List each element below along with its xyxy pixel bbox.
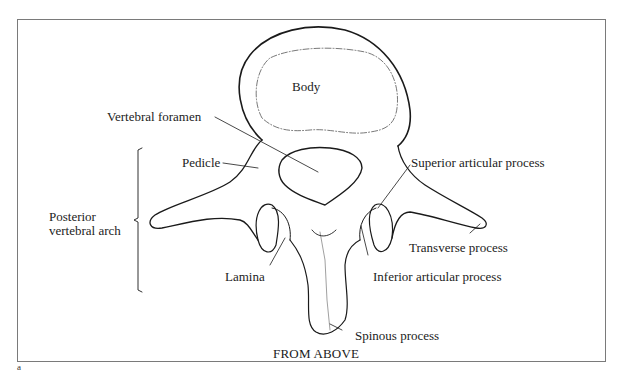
left-lamina bbox=[290, 240, 360, 334]
label-lamina: Lamina bbox=[225, 270, 265, 284]
label-pedicle: Pedicle bbox=[182, 156, 220, 170]
right-articular-facet bbox=[370, 204, 393, 251]
leader-inferior-articular bbox=[361, 226, 368, 255]
figure-caption: FROM ABOVE bbox=[273, 346, 359, 362]
label-transverse-process: Transverse process bbox=[409, 241, 508, 255]
left-articular-facet bbox=[256, 204, 278, 252]
label-vertebral-foramen: Vertebral foramen bbox=[107, 110, 201, 124]
leader-lamina bbox=[270, 238, 285, 265]
label-superior-articular-process: Superior articular process bbox=[411, 156, 545, 170]
vertebral-body-inner bbox=[256, 48, 397, 133]
label-posterior-vertebral-arch: Posterior vertebral arch bbox=[49, 210, 121, 238]
vertebra-illustration bbox=[0, 0, 619, 373]
label-spinous-process: Spinous process bbox=[355, 329, 439, 343]
label-inferior-articular-process: Inferior articular process bbox=[373, 270, 502, 284]
spinous-process-ridge bbox=[320, 232, 330, 330]
label-posterior-line1: Posterior bbox=[49, 209, 96, 224]
vertebral-foramen-outline bbox=[279, 148, 362, 206]
leader-pedicle bbox=[223, 163, 258, 168]
leader-superior-articular bbox=[378, 165, 410, 208]
posterior-arch-bracket bbox=[134, 148, 142, 292]
label-posterior-line2: vertebral arch bbox=[49, 223, 121, 238]
label-body: Body bbox=[292, 80, 320, 94]
figure-corner-mark: a bbox=[17, 362, 21, 372]
